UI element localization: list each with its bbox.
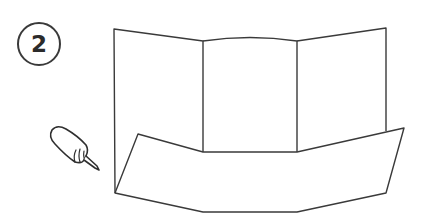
center-panel — [203, 38, 297, 153]
glue-bottle-icon — [51, 127, 99, 170]
right-panel — [297, 28, 386, 131]
folded-bottom-strip — [115, 128, 404, 212]
trifold-board-diagram — [0, 0, 425, 216]
